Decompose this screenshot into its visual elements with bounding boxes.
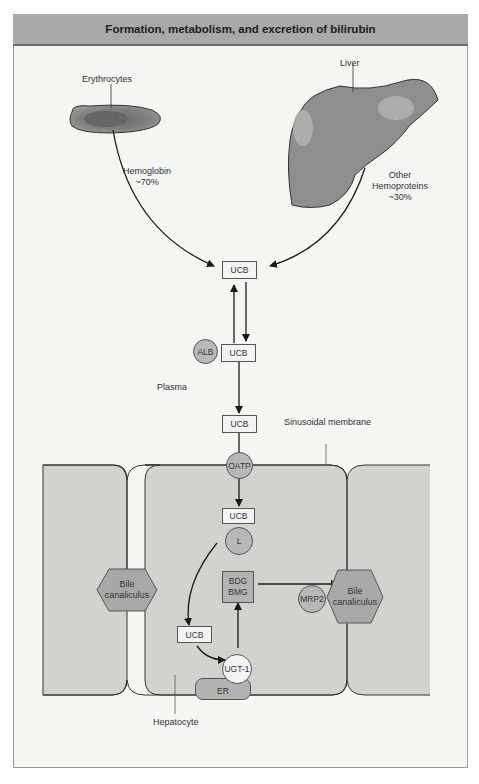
bile-canaliculus-right-label: Bile canaliculus (329, 586, 381, 608)
erythrocyte-icon (70, 84, 160, 133)
ucb-box-top: UCB (222, 261, 257, 279)
oatp-transporter: OATP (226, 452, 253, 479)
hemoglobin-label: Hemoglobin ~70% (123, 166, 171, 188)
plasma-label: Plasma (157, 382, 187, 393)
ugt1-enzyme: UGT-1 (222, 654, 252, 684)
liver-label: Liver (340, 58, 360, 69)
ucb-box-cytosol: UCB (222, 508, 255, 524)
albumin-circle: ALB (193, 339, 218, 364)
ligandin-circle: L (225, 527, 253, 555)
bdg-bmg-box: BDG BMG (222, 571, 254, 603)
other-hemoproteins-label: Other Hemoproteins ~30% (372, 170, 428, 203)
hepatocyte-label: Hepatocyte (153, 717, 199, 728)
ucb-box-er: UCB (177, 626, 212, 643)
bile-canaliculus-left-label: Bile canaliculus (103, 579, 151, 601)
ucb-box-albumin: UCB (221, 344, 256, 362)
mrp2-transporter: MRP2 (298, 585, 326, 613)
sinusoidal-membrane-label: Sinusoidal membrane (284, 417, 371, 428)
ucb-box-uptake: UCB (222, 415, 257, 433)
erythrocytes-label: Erythrocytes (82, 74, 132, 85)
